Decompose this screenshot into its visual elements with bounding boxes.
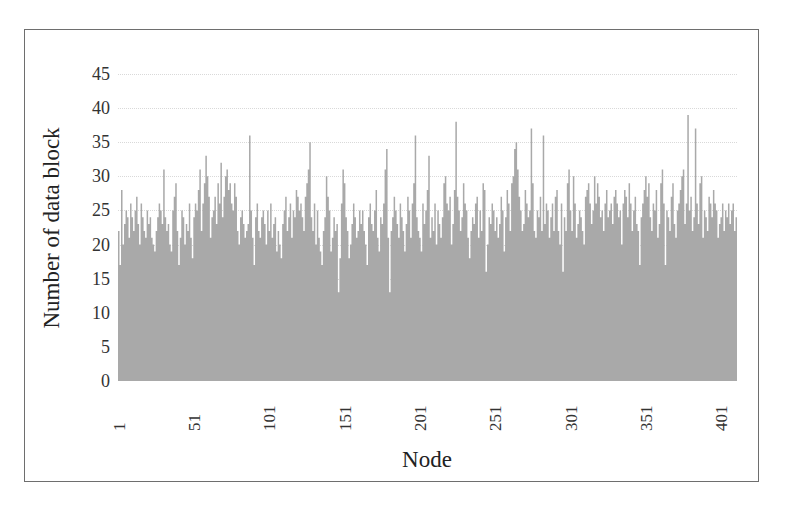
x-tick-label: 101 bbox=[260, 406, 280, 432]
bars bbox=[118, 115, 737, 381]
y-tick-label: 10 bbox=[70, 304, 110, 322]
y-tick-label: 25 bbox=[70, 201, 110, 219]
y-tick-label: 45 bbox=[70, 65, 110, 83]
x-tick-label: 301 bbox=[562, 406, 582, 432]
y-tick-label: 5 bbox=[70, 338, 110, 356]
x-tick-label: 151 bbox=[336, 406, 356, 432]
y-axis-label: Number of data block bbox=[39, 127, 65, 328]
x-tick-label: 351 bbox=[637, 406, 657, 432]
y-tick-label: 20 bbox=[70, 236, 110, 254]
x-tick-label: 201 bbox=[411, 406, 431, 432]
y-tick-label: 30 bbox=[70, 167, 110, 185]
y-tick-label: 40 bbox=[70, 99, 110, 117]
x-tick-label: 51 bbox=[185, 414, 205, 431]
x-axis-label: Node bbox=[402, 447, 452, 473]
bar-series bbox=[118, 74, 737, 381]
x-tick-label: 401 bbox=[712, 406, 732, 432]
y-tick-label: 35 bbox=[70, 133, 110, 151]
y-tick-label: 15 bbox=[70, 270, 110, 288]
x-tick-label: 1 bbox=[110, 423, 130, 432]
plot-area bbox=[118, 74, 737, 381]
y-tick-label: 0 bbox=[70, 372, 110, 390]
x-tick-label: 251 bbox=[486, 406, 506, 432]
